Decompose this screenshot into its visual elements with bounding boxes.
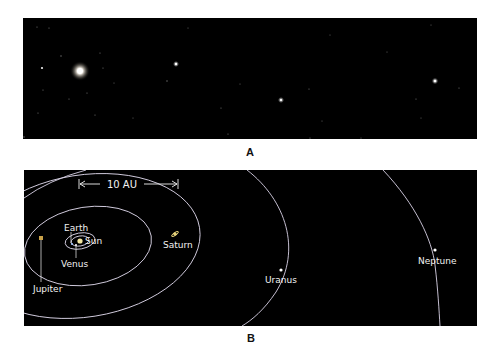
venus-icon xyxy=(75,244,77,246)
earth-label: Earth xyxy=(64,223,88,233)
outer-arc-topleft xyxy=(24,170,86,198)
jupiter-icon xyxy=(39,236,43,240)
panel-label-b: B xyxy=(241,332,261,344)
uranus-icon xyxy=(279,268,282,271)
scale-bar-label: 10 AU xyxy=(107,179,137,190)
star-field-graphic xyxy=(23,18,477,139)
orbits xyxy=(24,170,440,326)
orbit-graphic: 10 AU Sun Earth Venus Jupiter Saturn Ura… xyxy=(24,170,477,326)
neptune-orbit xyxy=(383,170,440,326)
bright-fuzzy-object xyxy=(70,61,90,81)
uranus-label: Uranus xyxy=(265,275,297,285)
saturn-label: Saturn xyxy=(163,240,193,250)
uranus-orbit xyxy=(242,170,289,326)
jupiter-label: Jupiter xyxy=(32,284,63,294)
bright-stars xyxy=(41,61,438,103)
solar-system-orbit-diagram: 10 AU Sun Earth Venus Jupiter Saturn Ura… xyxy=(24,170,477,326)
faint-stars xyxy=(23,25,459,139)
saturn-icon xyxy=(171,231,179,238)
star-field-photo xyxy=(23,18,477,139)
neptune-icon xyxy=(433,248,436,251)
sun-label: Sun xyxy=(85,236,102,246)
sun-icon xyxy=(77,238,82,243)
panel-label-a: A xyxy=(240,146,260,158)
neptune-label: Neptune xyxy=(418,256,457,266)
earth-icon xyxy=(71,243,73,245)
venus-label: Venus xyxy=(61,259,88,269)
jupiter-orbit xyxy=(24,197,157,294)
